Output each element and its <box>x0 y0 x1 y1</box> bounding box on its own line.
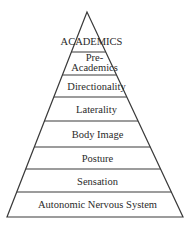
level-label-text: Posture <box>4 153 187 164</box>
level-label-text: Academics <box>1 63 187 73</box>
level-directionality: Directionality <box>3 81 187 92</box>
level-label-text: Autonomic Nervous System <box>4 199 187 210</box>
level-body-image: Body Image <box>4 129 187 140</box>
level-label-text: Laterality <box>3 104 187 115</box>
level-posture: Posture <box>4 153 187 164</box>
level-label-text: ACADEMICS <box>0 36 185 47</box>
level-laterality: Laterality <box>3 104 187 115</box>
level-label-text: Sensation <box>4 176 187 187</box>
level-pre-academics: Pre- Academics <box>1 53 187 73</box>
level-label-text: Body Image <box>4 129 187 140</box>
level-autonomic-nervous-system: Autonomic Nervous System <box>4 199 187 210</box>
level-sensation: Sensation <box>4 176 187 187</box>
level-academics: ACADEMICS <box>0 36 185 47</box>
level-label-text: Directionality <box>3 81 187 92</box>
